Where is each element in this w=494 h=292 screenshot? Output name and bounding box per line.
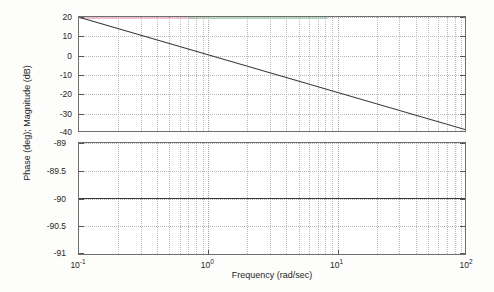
magnitude-ytick-label: -10: [26, 70, 72, 80]
bode-plot-figure: 20 10 0 -10 -20 -30 -40: [0, 0, 494, 292]
xtick-label-1e2: 102: [459, 258, 472, 270]
x-axis-label: Frequency (rad/sec): [78, 270, 466, 280]
magnitude-tick-right: [460, 17, 465, 18]
phase-curve: [79, 143, 465, 254]
xtick-exponent: 0: [210, 258, 214, 265]
xtick-label-1e0: 100: [201, 258, 214, 270]
magnitude-tick-right: [460, 94, 465, 95]
magnitude-tick-left: [79, 94, 84, 95]
phase-ytick-label: -90.5: [20, 221, 66, 231]
magnitude-curve: [79, 17, 465, 131]
xtick-label-1e1: 101: [330, 258, 343, 270]
xtick-exponent: -1: [80, 258, 86, 265]
magnitude-tick-right: [460, 114, 465, 115]
magnitude-tick-left: [79, 114, 84, 115]
phase-subplot: [78, 142, 466, 255]
phase-tick-left: [79, 253, 84, 254]
magnitude-tick-left: [79, 56, 84, 57]
magnitude-ytick-label: -40: [26, 127, 72, 137]
phase-tick-right: [460, 143, 465, 144]
magnitude-tick-right: [460, 75, 465, 76]
y-axis-label: Phase (deg); Magnitude (dB): [22, 33, 32, 213]
phase-tick-right: [460, 199, 465, 200]
magnitude-tick-left: [79, 75, 84, 76]
magnitude-tick-right: [460, 36, 465, 37]
phase-tick-left: [79, 199, 84, 200]
magnitude-tick-right: [460, 56, 465, 57]
magnitude-ytick-label: 20: [26, 12, 72, 22]
magnitude-ytick-label: -30: [26, 109, 72, 119]
xtick-label-1e-1: 10-1: [70, 258, 85, 270]
phase-tick-right: [460, 171, 465, 172]
xtick-exponent: 1: [340, 258, 344, 265]
phase-tick-right: [460, 253, 465, 254]
phase-tick-left: [79, 143, 84, 144]
phase-tick-right: [460, 226, 465, 227]
magnitude-tick-left: [79, 17, 84, 18]
magnitude-ytick-label: -20: [26, 89, 72, 99]
magnitude-tick-left: [79, 36, 84, 37]
magnitude-ytick-label: 10: [26, 31, 72, 41]
magnitude-ytick-label: 0: [26, 51, 72, 61]
phase-tick-left: [79, 171, 84, 172]
magnitude-plot-surface: [79, 17, 465, 131]
phase-tick-left: [79, 226, 84, 227]
xtick-exponent: 2: [469, 258, 473, 265]
magnitude-subplot: [78, 16, 466, 132]
phase-xtick: [208, 250, 209, 254]
phase-ytick-label: -91: [20, 248, 66, 258]
phase-plot-surface: [79, 143, 465, 254]
phase-xtick: [338, 250, 339, 254]
